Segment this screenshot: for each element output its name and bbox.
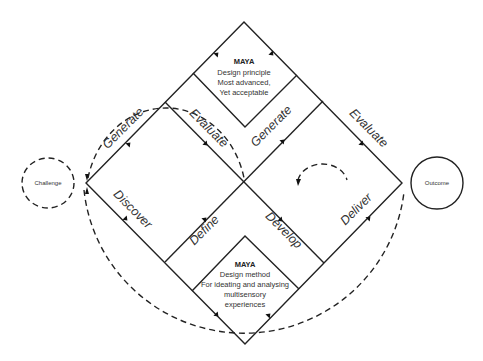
arrow-icon xyxy=(85,187,89,194)
double-diamond-diagram: Challenge Outcome Generate Evaluate Gene… xyxy=(0,0,483,361)
maya-top-line: Most advanced, xyxy=(218,78,271,87)
activity-generate-right: Generate xyxy=(248,103,295,150)
challenge-node: Challenge xyxy=(22,158,74,208)
maya-bottom-line: experiences xyxy=(225,300,266,309)
maya-bottom-line: multisensory xyxy=(224,290,266,299)
maya-top-line: Design principle xyxy=(217,68,270,77)
maya-top-text: MAYA Design principle Most advanced, Yet… xyxy=(217,57,270,97)
activity-evaluate-right: Evaluate xyxy=(347,106,391,150)
maya-top-line: Yet acceptable xyxy=(220,88,269,97)
maya-bottom-title: MAYA xyxy=(235,260,256,269)
phase-define: Define xyxy=(186,212,221,247)
arrow-icon xyxy=(296,179,301,186)
phase-deliver: Deliver xyxy=(337,190,375,228)
arrow-icon xyxy=(365,214,372,221)
phase-develop: Develop xyxy=(263,209,305,251)
outcome-label: Outcome xyxy=(425,180,450,186)
challenge-label: Challenge xyxy=(34,180,62,186)
maya-bottom-line: For ideating and analysing xyxy=(201,280,289,289)
maya-top-title: MAYA xyxy=(234,57,255,66)
outcome-node: Outcome xyxy=(411,157,463,209)
phase-discover: Discover xyxy=(111,187,156,232)
deliver-loop-arc xyxy=(298,164,347,180)
maya-bottom-line: Design method xyxy=(220,270,270,279)
activity-evaluate-left: Evaluate xyxy=(187,106,231,150)
